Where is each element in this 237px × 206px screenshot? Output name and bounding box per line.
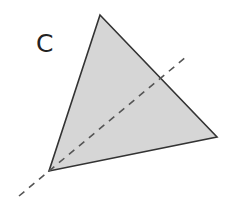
figure-label: C xyxy=(36,29,53,58)
shaded-triangle xyxy=(49,15,217,171)
triangle-diagram: C xyxy=(0,0,237,206)
